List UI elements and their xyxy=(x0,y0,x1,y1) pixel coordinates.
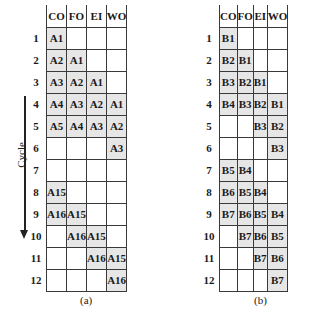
cycle-row: A3A2A1 xyxy=(47,72,127,94)
stage-cell xyxy=(253,138,267,160)
stage-cell xyxy=(47,160,67,182)
stage-cell xyxy=(267,182,288,204)
stage-cell: B7 xyxy=(253,248,267,270)
cycle-number: 11 xyxy=(24,248,48,269)
stage-cell xyxy=(106,204,127,226)
cycle-number: 12 xyxy=(197,270,221,291)
column-header-fo: FO xyxy=(237,5,253,28)
cycle-number: 8 xyxy=(24,182,48,203)
stage-cell: A16 xyxy=(66,226,86,248)
column-header-ei: EI xyxy=(86,5,106,28)
stage-cell xyxy=(253,270,267,292)
stage-cell: A4 xyxy=(66,116,86,138)
stage-cell xyxy=(220,270,238,292)
cycle-row: B4B3B2B1 xyxy=(220,94,288,116)
header-row: COFOEIWO xyxy=(47,5,127,28)
stage-cell: B5 xyxy=(267,226,288,248)
stage-cell: B1 xyxy=(267,94,288,116)
stage-cell xyxy=(106,28,127,50)
cycle-row: A4A3A2A1 xyxy=(47,94,127,116)
stage-cell xyxy=(47,138,67,160)
cycle-row: B7B6B5B4 xyxy=(220,204,288,226)
cycle-row: B2B1 xyxy=(220,50,288,72)
cycle-row: B3B2 xyxy=(220,116,288,138)
stage-cell: B4 xyxy=(220,94,238,116)
stage-cell xyxy=(220,138,238,160)
cycle-number: 5 xyxy=(24,116,48,137)
stage-cell: A16 xyxy=(106,270,127,292)
stage-cell xyxy=(106,50,127,72)
stage-cell: A3 xyxy=(66,94,86,116)
stage-cell: B6 xyxy=(220,182,238,204)
stage-cell: A1 xyxy=(66,50,86,72)
stage-cell xyxy=(106,160,127,182)
stage-cell: A15 xyxy=(106,248,127,270)
cycle-row: B7B6 xyxy=(220,248,288,270)
stage-cell xyxy=(86,160,106,182)
stage-cell: A2 xyxy=(106,116,127,138)
cycle-row: B5B4 xyxy=(220,160,288,182)
cycle-row: A5A4A3A2 xyxy=(47,116,127,138)
cycle-number: 9 xyxy=(24,204,48,225)
stage-cell: B6 xyxy=(253,226,267,248)
cycle-row: B7 xyxy=(220,270,288,292)
cycle-number: 4 xyxy=(24,94,48,115)
stage-cell: B6 xyxy=(267,248,288,270)
stage-cell: A3 xyxy=(106,138,127,160)
column-header-co: CO xyxy=(47,5,67,28)
pipeline-table: COFOEIWOA1A2A1A3A2A1A4A3A2A1A5A4A3A2A3A1… xyxy=(46,5,127,292)
stage-cell: A1 xyxy=(47,28,67,50)
stage-cell: A1 xyxy=(86,72,106,94)
stage-cell xyxy=(66,182,86,204)
cycle-row: A16 xyxy=(47,270,127,292)
stage-cell xyxy=(220,248,238,270)
stage-cell: B3 xyxy=(220,72,238,94)
cycle-number: 12 xyxy=(24,270,48,291)
cycle-arrow-line xyxy=(24,96,26,232)
stage-cell xyxy=(267,50,288,72)
stage-cell: A15 xyxy=(66,204,86,226)
stage-cell: B4 xyxy=(237,160,253,182)
header-row: COFOEIWO xyxy=(220,5,288,28)
stage-cell: B3 xyxy=(267,138,288,160)
stage-cell xyxy=(220,226,238,248)
stage-cell xyxy=(47,248,67,270)
cycle-row: A16A15 xyxy=(47,226,127,248)
panel-caption: (b) xyxy=(254,294,267,306)
stage-cell xyxy=(253,28,267,50)
stage-cell xyxy=(66,270,86,292)
stage-cell: A3 xyxy=(47,72,67,94)
stage-cell xyxy=(253,50,267,72)
stage-cell: B7 xyxy=(220,204,238,226)
stage-cell: A15 xyxy=(86,226,106,248)
cycle-number: 9 xyxy=(197,204,221,225)
stage-cell: B7 xyxy=(267,270,288,292)
stage-cell: A2 xyxy=(47,50,67,72)
cycle-number: 3 xyxy=(197,72,221,93)
cycle-number: 6 xyxy=(24,138,48,159)
stage-cell: B5 xyxy=(253,204,267,226)
cycle-row: B1 xyxy=(220,28,288,50)
stage-cell: B2 xyxy=(253,94,267,116)
stage-cell xyxy=(66,248,86,270)
stage-cell xyxy=(237,116,253,138)
stage-cell xyxy=(237,270,253,292)
cycle-row: A3 xyxy=(47,138,127,160)
stage-cell xyxy=(66,28,86,50)
stage-cell xyxy=(106,226,127,248)
stage-cell: A16 xyxy=(47,204,67,226)
stage-cell: A1 xyxy=(106,94,127,116)
cycle-number: 3 xyxy=(24,72,48,93)
stage-cell: B1 xyxy=(253,72,267,94)
stage-cell xyxy=(47,226,67,248)
stage-cell xyxy=(106,72,127,94)
cycle-row: B7B6B5 xyxy=(220,226,288,248)
stage-cell: B6 xyxy=(237,204,253,226)
column-header-fo: FO xyxy=(66,5,86,28)
cycle-row: B3 xyxy=(220,138,288,160)
cycle-row: A1 xyxy=(47,28,127,50)
stage-cell xyxy=(86,204,106,226)
stage-cell: B3 xyxy=(237,94,253,116)
cycle-row: B6B5B4 xyxy=(220,182,288,204)
stage-cell: B1 xyxy=(237,50,253,72)
